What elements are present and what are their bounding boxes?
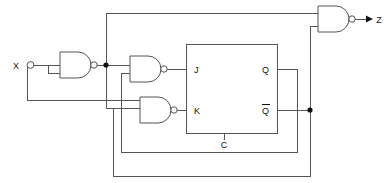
nand-gate-output[interactable] bbox=[318, 6, 355, 32]
nand-gate-j[interactable] bbox=[130, 56, 167, 82]
label-ff-k: K bbox=[194, 106, 200, 116]
net-inverter-branch-down bbox=[106, 65, 140, 108]
net-qbar-feedback bbox=[113, 108, 310, 176]
net-j-gate-lower-input bbox=[121, 73, 130, 152]
label-ff-j: J bbox=[194, 65, 199, 75]
label-ff-qbar: Q bbox=[262, 106, 269, 116]
circuit-canvas: X Z J K Q Q C bbox=[0, 0, 386, 183]
logic-circuit-diagram: X Z J K Q Q C bbox=[0, 0, 386, 183]
nand-gate-inverter[interactable] bbox=[60, 52, 97, 78]
junction-dot-qbar bbox=[307, 107, 312, 112]
junction-dot-inverter-out bbox=[103, 62, 108, 67]
jk-flipflop-box[interactable] bbox=[186, 44, 277, 133]
net-q-feedback bbox=[121, 69, 297, 152]
nand-gate-k[interactable] bbox=[140, 97, 177, 123]
label-output-z: Z bbox=[376, 15, 382, 25]
net-inverter-top-feedback bbox=[106, 13, 318, 65]
label-ff-clock: C bbox=[221, 140, 228, 150]
label-ff-qbar-group: Q bbox=[262, 105, 270, 116]
label-ff-q: Q bbox=[262, 65, 269, 75]
output-arrow-z bbox=[366, 16, 373, 23]
net-x-input bbox=[34, 65, 60, 73]
net-qbar-to-output-gate bbox=[310, 26, 318, 110]
input-terminal-x[interactable] bbox=[27, 62, 34, 69]
label-input-x: X bbox=[13, 61, 19, 71]
net-x-feedback-down bbox=[27, 65, 140, 100]
